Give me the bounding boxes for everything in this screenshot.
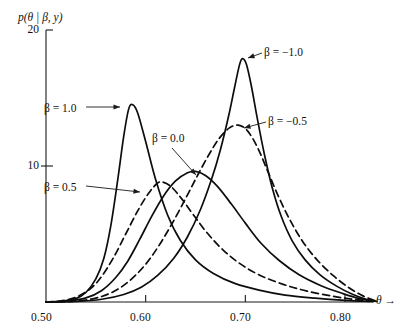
- leader-arrowhead: [244, 124, 251, 129]
- chart-canvas: [0, 0, 412, 334]
- series-label-4: β = −1.0: [264, 47, 303, 59]
- curve-beta-neg1: [46, 59, 377, 302]
- x-axis-title: θ →: [376, 295, 396, 307]
- leader-line: [86, 186, 140, 192]
- y-tick-label-10: 10: [17, 160, 39, 172]
- leader-arrowhead: [133, 189, 140, 194]
- leader-arrowhead: [248, 53, 255, 58]
- figure-container: p(θ | β, y) 20 10 0.50 0.60 0.70 0.80 θ …: [0, 0, 412, 334]
- curve-beta-1: [46, 104, 370, 302]
- series-label-3: β = −0.5: [268, 116, 307, 128]
- curve-beta-0neg5: [46, 182, 373, 302]
- y-tick-label-20: 20: [17, 24, 39, 36]
- curves-group: [46, 59, 377, 302]
- series-label-1: β = 0.5: [44, 182, 76, 194]
- axes-group: [41, 30, 374, 302]
- x-tick-label-1: 0.60: [130, 312, 151, 324]
- y-axis-title-text: p(θ | β, y): [18, 11, 63, 23]
- x-tick-label-0: 0.50: [31, 312, 52, 324]
- curve-beta-neg0-5: [46, 125, 375, 302]
- series-label-0: β = 1.0: [44, 103, 76, 115]
- annotation-leaders-group: [86, 53, 266, 194]
- leader-arrowhead: [114, 104, 121, 109]
- series-label-2: β = 0.0: [152, 133, 184, 145]
- x-tick-label-2: 0.70: [230, 312, 251, 324]
- y-axis-title: p(θ | β, y): [18, 12, 63, 24]
- x-tick-label-3: 0.80: [330, 312, 351, 324]
